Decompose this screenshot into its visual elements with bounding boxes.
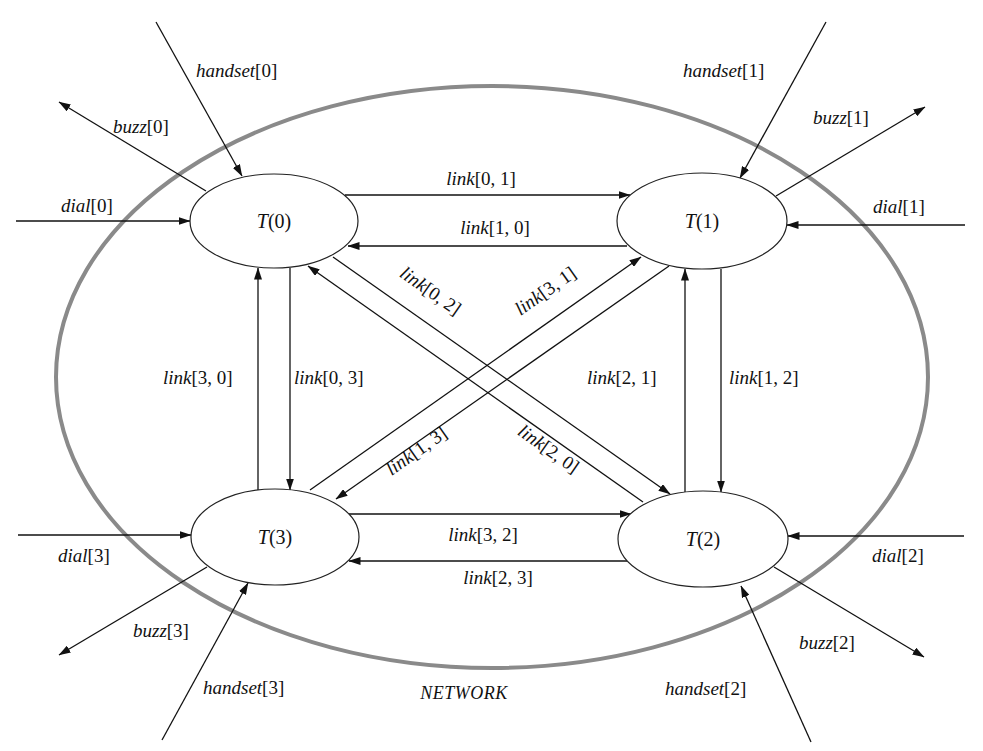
svg-text:T(1): T(1) bbox=[685, 210, 719, 233]
link-1-0-label: link[1, 0] bbox=[460, 217, 530, 238]
handset-0-arrow bbox=[156, 22, 242, 176]
svg-text:T(0): T(0) bbox=[257, 210, 291, 233]
link-3-2-label: link[3, 2] bbox=[448, 524, 518, 545]
handset-2-label: handset[2] bbox=[665, 678, 746, 699]
handset-3-label: handset[3] bbox=[203, 677, 284, 698]
handset-2-arrow bbox=[741, 586, 811, 742]
node-t2-index: (2) bbox=[697, 528, 720, 551]
link-0-3-label: link[0, 3] bbox=[294, 367, 364, 388]
node-t0: T(0) bbox=[190, 174, 358, 268]
buzz-1-label: buzz[1] bbox=[813, 107, 869, 128]
link-1-2-label: link[1, 2] bbox=[729, 367, 799, 388]
link-3-0-label: link[3, 0] bbox=[163, 367, 233, 388]
node-t3-index: (3) bbox=[269, 526, 292, 549]
node-t3: T(3) bbox=[191, 489, 359, 585]
link-2-3-label: link[2, 3] bbox=[463, 567, 533, 588]
link-2-0-label: link[2, 0] bbox=[514, 420, 583, 477]
handset-0-label: handset[0] bbox=[196, 60, 277, 81]
dial-3-label: dial[3] bbox=[58, 545, 110, 566]
dial-0-label: dial[0] bbox=[61, 195, 113, 216]
handset-1-label: handset[1] bbox=[683, 60, 764, 81]
svg-text:T(3): T(3) bbox=[258, 526, 292, 549]
network-label: NETWORK bbox=[419, 683, 508, 703]
buzz-3-label: buzz[3] bbox=[133, 620, 189, 641]
dial-1-label: dial[1] bbox=[873, 196, 925, 217]
node-t0-index: (0) bbox=[268, 210, 291, 233]
node-t2: T(2) bbox=[618, 491, 788, 587]
handset-3-arrow bbox=[162, 583, 248, 740]
link-2-1-label: link[2, 1] bbox=[587, 367, 657, 388]
network-diagram: T(0) T(1) T(2) T(3) handset[0] buzz[0] d… bbox=[0, 0, 983, 751]
buzz-0-label: buzz[0] bbox=[113, 116, 169, 137]
node-t1-index: (1) bbox=[696, 210, 719, 233]
link-0-1-label: link[0, 1] bbox=[446, 168, 516, 189]
link-1-3-label: link[1, 3] bbox=[382, 422, 451, 479]
link-3-1-label: link[3, 1] bbox=[511, 262, 580, 319]
buzz-2-label: buzz[2] bbox=[799, 632, 855, 653]
handset-1-arrow bbox=[740, 22, 826, 178]
svg-text:T(2): T(2) bbox=[686, 528, 720, 551]
dial-2-label: dial[2] bbox=[872, 545, 924, 566]
node-t1: T(1) bbox=[617, 173, 787, 269]
buzz-3-arrow bbox=[59, 567, 207, 655]
link-0-2-label: link[0, 2] bbox=[396, 262, 465, 319]
